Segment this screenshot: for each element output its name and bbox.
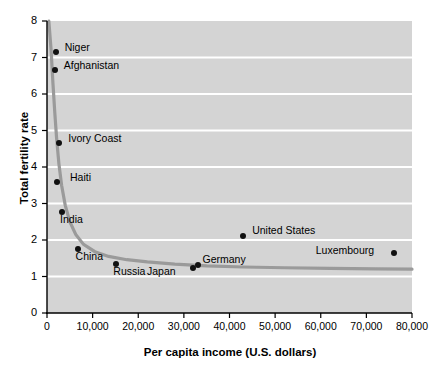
data-point-label: Germany bbox=[202, 254, 245, 265]
data-point-label: Japan bbox=[147, 266, 176, 277]
data-point-label: United States bbox=[252, 225, 315, 236]
y-tick-label: 2 bbox=[15, 234, 37, 245]
y-tick-label: 3 bbox=[15, 198, 37, 209]
x-axis-title: Per capita income (U.S. dollars) bbox=[47, 346, 413, 358]
data-point-label: Luxembourg bbox=[316, 245, 374, 256]
y-tick-label: 5 bbox=[15, 125, 37, 136]
data-point-label: Niger bbox=[65, 42, 90, 53]
x-tick-label: 80,000 bbox=[382, 321, 433, 332]
data-point-label: Afghanistan bbox=[64, 60, 119, 71]
data-point-marker[interactable] bbox=[52, 67, 58, 73]
scatter-plot-figure: Total fertility rate Per capita income (… bbox=[0, 0, 433, 374]
data-point-marker[interactable] bbox=[53, 49, 59, 55]
data-point-label: Ivory Coast bbox=[68, 133, 121, 144]
data-point-label: India bbox=[60, 214, 83, 225]
y-tick-label: 4 bbox=[15, 161, 37, 172]
data-point-label: China bbox=[76, 251, 103, 262]
data-point-label: Haiti bbox=[70, 172, 91, 183]
y-tick-label: 6 bbox=[15, 88, 37, 99]
y-tick-label: 0 bbox=[15, 307, 37, 318]
data-point-marker[interactable] bbox=[391, 250, 397, 256]
y-tick-label: 7 bbox=[15, 52, 37, 63]
plot-canvas bbox=[0, 0, 433, 374]
y-tick-label: 8 bbox=[15, 15, 37, 26]
data-point-label: Russia bbox=[113, 266, 145, 277]
data-point-marker[interactable] bbox=[240, 233, 246, 239]
y-tick-label: 1 bbox=[15, 271, 37, 282]
